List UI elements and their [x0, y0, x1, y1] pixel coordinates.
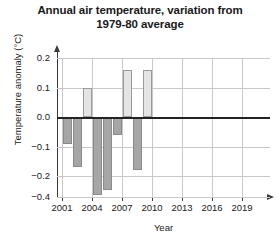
- bar: [63, 117, 72, 144]
- gridline-y-4: [57, 176, 270, 177]
- gridline-x-4: [182, 58, 183, 197]
- chart-container: Annual air temperature, variation from 1…: [0, 0, 280, 239]
- y-tick-label-1: 0.1: [18, 83, 50, 93]
- y-tick-label-3: −0.1: [18, 142, 50, 152]
- y-tick-label-0: 0.2: [18, 53, 50, 63]
- chart-title: Annual air temperature, variation from 1…: [0, 3, 280, 31]
- bar: [143, 70, 152, 117]
- plot-area: [57, 58, 270, 197]
- bar: [113, 117, 122, 135]
- x-tick-label-6: 2019: [222, 203, 262, 213]
- bar: [73, 117, 82, 167]
- y-tick-label-2: 0.0: [18, 112, 50, 122]
- chart-title-line-1: Annual air temperature, variation from: [0, 3, 280, 17]
- bar: [133, 117, 142, 170]
- gridline-x-3: [152, 58, 153, 197]
- bar: [123, 70, 132, 117]
- gridline-y-3: [57, 147, 270, 148]
- bar: [93, 117, 102, 195]
- x-axis-label: Year: [57, 222, 270, 233]
- gridline-y-5: [57, 197, 270, 198]
- gridline-y-0: [57, 58, 270, 59]
- zero-reference-line: [57, 117, 270, 119]
- gridline-x-5: [212, 58, 213, 197]
- chart-title-line-2: 1979-80 average: [0, 17, 280, 31]
- y-tick-label-4: −0.2: [18, 171, 50, 181]
- bar: [83, 88, 92, 118]
- gridline-x-6: [242, 58, 243, 197]
- y-axis-arrow: [54, 45, 60, 52]
- y-tick-label-5: −0.4: [18, 192, 50, 202]
- bar: [103, 117, 112, 190]
